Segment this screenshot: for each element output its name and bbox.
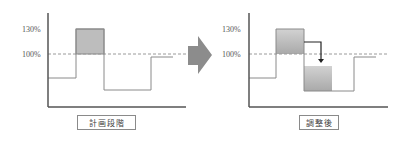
tick-100: 100% bbox=[222, 50, 241, 59]
shift-arrow-head-icon bbox=[318, 59, 324, 63]
left-chart: 130% 100% bbox=[22, 13, 186, 107]
shift-arrow bbox=[304, 42, 321, 59]
diagram-canvas: 130% 100% 130% 100% bbox=[0, 0, 408, 143]
right-caption-text: 調整後 bbox=[306, 117, 333, 128]
tick-130: 130% bbox=[222, 25, 241, 34]
overload-block bbox=[76, 29, 104, 54]
right-chart: 130% 100% bbox=[222, 13, 388, 107]
tick-130: 130% bbox=[22, 25, 41, 34]
remaining-block bbox=[276, 29, 304, 54]
right-caption: 調整後 bbox=[299, 115, 339, 130]
right-arrow-icon bbox=[188, 36, 212, 74]
shifted-block bbox=[304, 66, 332, 91]
left-caption: 計画段階 bbox=[77, 115, 136, 130]
tick-100: 100% bbox=[22, 50, 41, 59]
left-caption-text: 計画段階 bbox=[89, 117, 125, 128]
load-line bbox=[48, 29, 173, 90]
